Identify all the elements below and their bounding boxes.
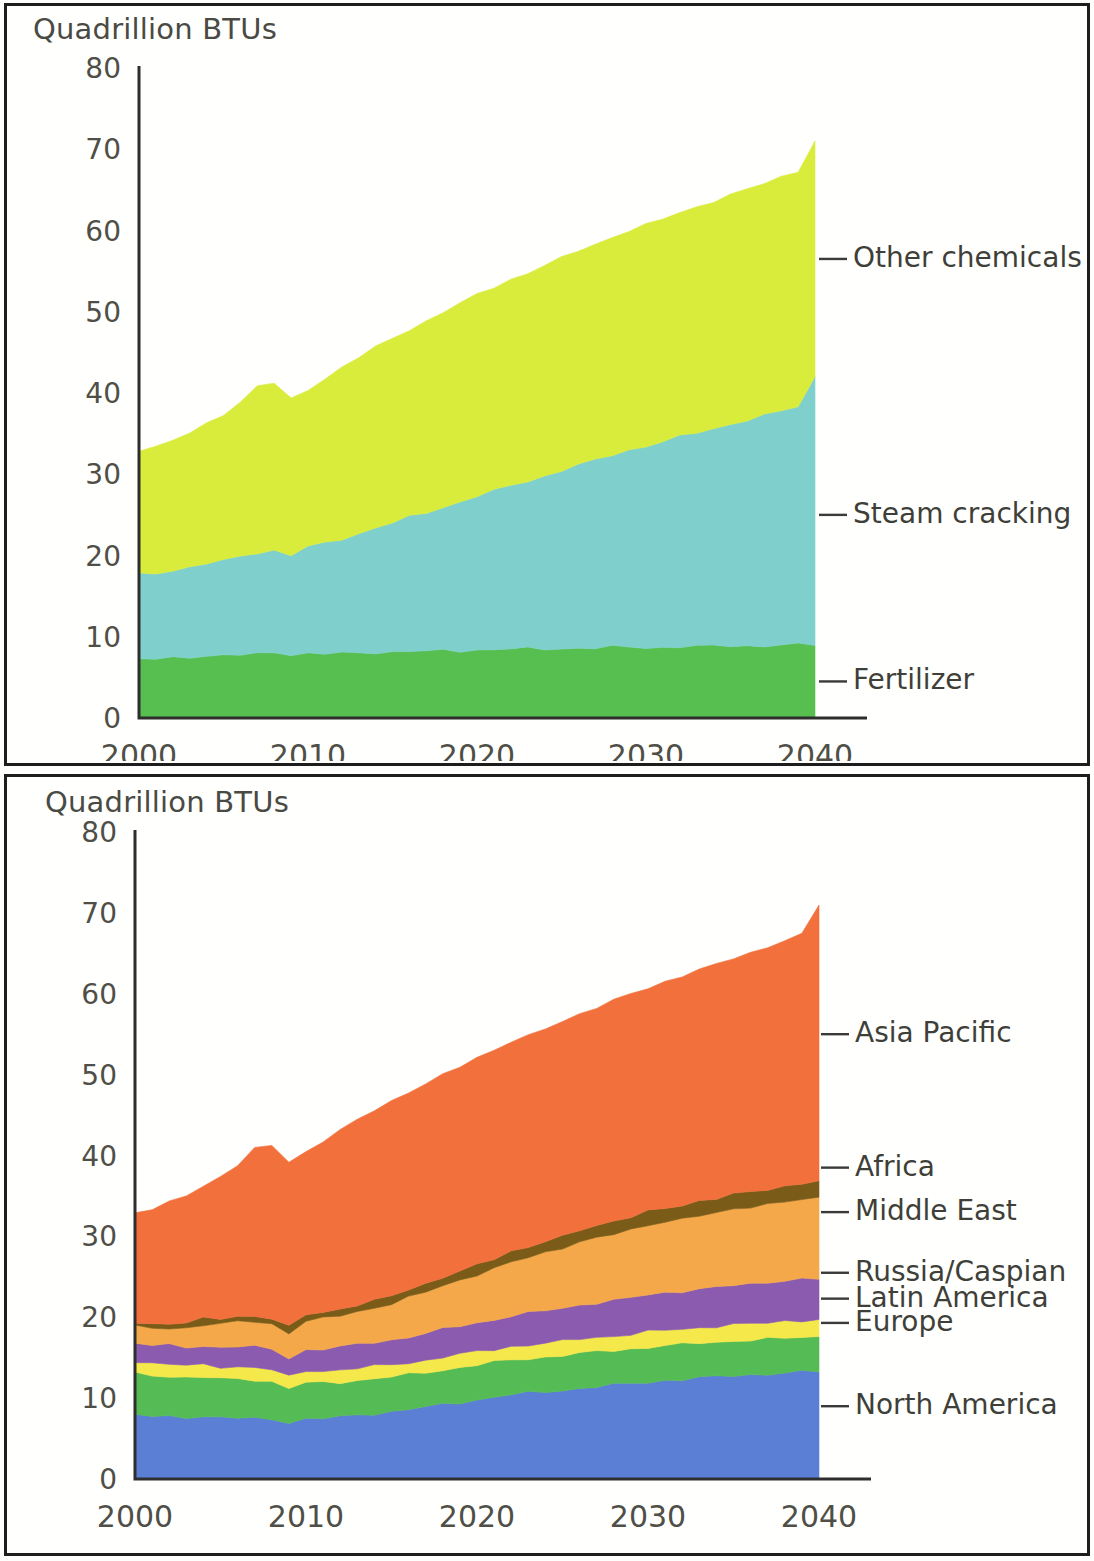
series-label-asia-pacific: Asia Pacific [855, 1016, 1012, 1049]
x-tick-label: 2040 [777, 738, 853, 761]
area-bands [135, 905, 819, 1479]
x-tick-label: 2030 [610, 1499, 686, 1534]
y-tick-label: 80 [85, 52, 121, 85]
chart-panel-by-region: Quadrillion BTUs 01020304050607080200020… [4, 774, 1090, 1556]
y-tick-label: 10 [85, 621, 121, 654]
y-tick-label: 60 [81, 978, 117, 1011]
series-labels: Asia PacificAfricaMiddle EastRussia/Casp… [821, 1016, 1066, 1421]
y-axis-ticks: 01020304050607080 [81, 816, 117, 1496]
series-label-europe: Europe [855, 1305, 953, 1338]
area-bands [139, 141, 815, 718]
series-label-other-chemicals: Other chemicals [853, 241, 1082, 274]
y-tick-label: 70 [85, 133, 121, 166]
series-labels: Other chemicalsSteam crackingFertilizer [819, 241, 1082, 697]
series-label-fertilizer: Fertilizer [853, 663, 975, 696]
y-tick-label: 50 [85, 296, 121, 329]
y-tick-label: 40 [85, 377, 121, 410]
x-tick-label: 2020 [439, 1499, 515, 1534]
y-tick-label: 60 [85, 215, 121, 248]
x-tick-label: 2040 [781, 1499, 857, 1534]
series-label-africa: Africa [855, 1150, 935, 1183]
x-tick-label: 2010 [270, 738, 346, 761]
y-tick-label: 0 [103, 702, 121, 735]
y-tick-label: 70 [81, 897, 117, 930]
x-axis-ticks: 20002010202020302040 [101, 738, 853, 761]
x-tick-label: 2000 [97, 1499, 173, 1534]
y-tick-label: 0 [99, 1463, 117, 1496]
x-axis-ticks: 20002010202020302040 [97, 1499, 857, 1534]
chart-panel-by-process: Quadrillion BTUs 01020304050607080200020… [4, 3, 1090, 766]
y-axis-ticks: 01020304050607080 [85, 52, 121, 735]
y-tick-label: 10 [81, 1382, 117, 1415]
chart-by-process-plot: 0102030405060708020002010202020302040Oth… [7, 6, 1087, 761]
x-tick-label: 2010 [268, 1499, 344, 1534]
x-tick-label: 2030 [608, 738, 684, 761]
y-tick-label: 40 [81, 1140, 117, 1173]
x-tick-label: 2000 [101, 738, 177, 761]
figure-page: Quadrillion BTUs 01020304050607080200020… [0, 0, 1094, 1561]
chart-by-region-plot: 0102030405060708020002010202020302040Asi… [7, 777, 1087, 1552]
y-tick-label: 20 [81, 1301, 117, 1334]
x-tick-label: 2020 [439, 738, 515, 761]
series-label-steam-cracking: Steam cracking [853, 497, 1071, 530]
y-tick-label: 30 [81, 1220, 117, 1253]
series-label-middle-east: Middle East [855, 1194, 1017, 1227]
y-tick-label: 80 [81, 816, 117, 849]
y-tick-label: 30 [85, 458, 121, 491]
series-label-north-america: North America [855, 1388, 1058, 1421]
y-tick-label: 20 [85, 540, 121, 573]
y-tick-label: 50 [81, 1059, 117, 1092]
chart-by-region-axis-title: Quadrillion BTUs [45, 785, 289, 819]
chart-by-process-axis-title: Quadrillion BTUs [33, 12, 277, 46]
